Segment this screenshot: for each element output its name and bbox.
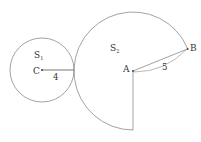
point-c	[41, 69, 43, 71]
point-b	[187, 48, 189, 50]
label-radius-4: 4	[53, 72, 58, 82]
label-s2: S2	[110, 43, 119, 54]
point-a	[132, 70, 134, 72]
label-b: B	[190, 43, 197, 53]
geometry-diagram: S1 C 4 S2 A B 5	[0, 0, 201, 142]
label-c: C	[33, 66, 40, 76]
label-s1: S1	[34, 50, 43, 61]
sector-s2	[74, 12, 188, 130]
label-radius-5: 5	[162, 62, 167, 72]
label-a: A	[122, 64, 130, 74]
